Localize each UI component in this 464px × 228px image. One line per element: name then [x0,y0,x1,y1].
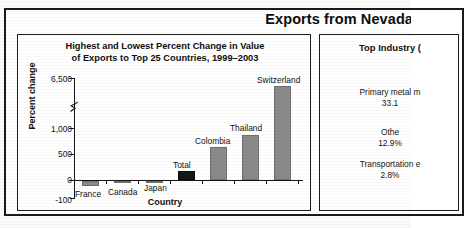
x-tick-mark-3 [170,180,171,184]
category-label-canada: Canada [108,187,137,197]
page-title: Exports from Nevada [265,11,411,27]
chart-plot-area: Percent change 6,500 1,000 500 0 -100 [18,35,311,211]
bar-label-thailand: Thailand [230,123,262,133]
bar-switzerland [274,86,291,180]
industry-value-1: 12.9% [320,138,459,149]
bar-canada [114,181,131,183]
x-tick-mark-6 [266,180,267,184]
x-axis-line [74,180,303,181]
y-axis-line [74,78,75,180]
category-label-japan: Japan [144,183,167,193]
bar-label-switzerland: Switzerland [257,75,300,85]
bar-thailand [242,135,259,181]
bar-colombia [210,147,227,180]
industry-name-0: Primary metal m [320,87,459,98]
industry-name-2: Transportation e [320,159,459,170]
chart-panel: Highest and Lowest Percent Change in Val… [17,34,311,211]
x-tick-mark-1 [106,180,107,184]
x-tick-mark-4 [202,180,203,184]
x-tick-mark-7 [298,180,299,184]
industry-item-primary-metal: Primary metal m 33.1 [320,87,459,109]
x-tick-mark-2 [138,180,139,184]
x-tick-mark-5 [234,180,235,184]
x-axis-label: Country [18,197,311,207]
header-bar: Exports from Nevada [4,10,411,32]
y-tick-mark-6500 [69,78,74,79]
industry-item-other: Othe 12.9% [320,127,459,149]
industry-value-0: 33.1 [320,98,459,109]
industry-name-1: Othe [320,127,459,138]
y-axis-label: Percent change [27,58,37,134]
bar-label-total: Total [173,160,191,170]
bar-label-colombia: Colombia [195,136,230,146]
bar-france [82,181,99,186]
industry-value-2: 2.8% [320,170,459,181]
industry-item-transportation: Transportation e 2.8% [320,159,459,181]
y-tick-mark-1000 [69,128,74,129]
side-panel-title: Top Industry ( [320,42,459,53]
axis-break-icon [69,101,80,113]
side-panel: Top Industry ( Primary metal m 33.1 Othe… [319,34,459,211]
y-tick-mark-500 [69,154,74,155]
bar-total [178,171,195,180]
